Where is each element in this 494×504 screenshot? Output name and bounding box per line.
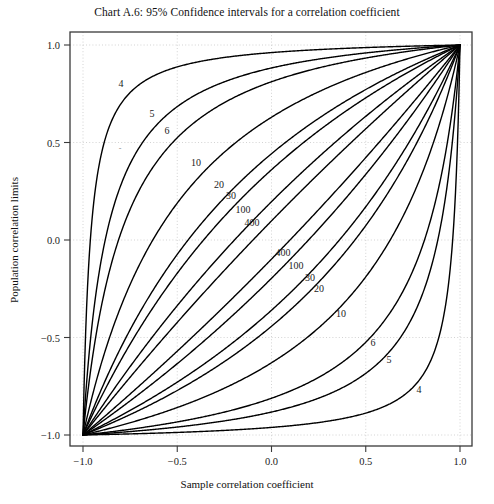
curve-label-n-4: 4 [417,384,422,395]
y-tick-label: 0.5 [30,137,60,148]
y-tick-label: −0.5 [30,332,60,343]
gridlines [70,32,472,446]
x-tick-label: −0.5 [168,456,187,467]
x-tick-label: 0.0 [265,456,278,467]
y-tick-label: −1.0 [30,430,60,441]
x-axis-title: Sample correlation coefficient [0,478,494,490]
curve-label-n-30: 30 [305,272,315,283]
curve-label-n-400: 400 [245,217,260,228]
plot-canvas [0,0,494,504]
curve-label-n-10: 10 [336,308,346,319]
curve-label-n-100: 100 [236,204,251,215]
y-tick-label: 1.0 [30,40,60,51]
curve-label-n-6: 6 [165,125,170,136]
curve-label-n-5: 5 [387,354,392,365]
y-axis-title: Population correlation limits [8,140,20,340]
curve-label-n-20: 20 [214,179,224,190]
curve-label-n-6: 6 [371,337,376,348]
x-tick-label: 0.5 [359,456,372,467]
curve-label-n-400: 400 [276,247,291,258]
x-tick-label: −1.0 [73,456,92,467]
chart-container: Chart A.6: 95% Confidence intervals for … [0,0,494,504]
x-tick-label: 1.0 [453,456,466,467]
plot-frame [70,32,472,446]
faint-tick-artifact: - [119,144,122,153]
curve-label-n-20: 20 [314,283,324,294]
curve-label-n-4: 4 [119,78,124,89]
curve-label-n-10: 10 [191,157,201,168]
tick-marks [64,45,460,452]
curve-label-n-5: 5 [150,108,155,119]
y-tick-label: 0.0 [30,235,60,246]
curve-label-n-30: 30 [226,190,236,201]
curve-label-n-100: 100 [289,260,304,271]
